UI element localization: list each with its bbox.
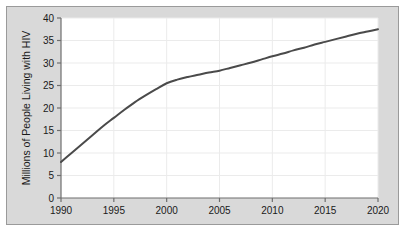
y-axis-tick-label: 30 xyxy=(43,58,55,69)
chart-figure: 0510152025303540 19901995200020052010201… xyxy=(0,0,407,234)
y-axis-tick-labels: 0510152025303540 xyxy=(43,13,55,204)
y-axis-tick-label: 40 xyxy=(43,13,55,24)
y-axis-tick-label: 20 xyxy=(43,103,55,114)
line-chart: 0510152025303540 19901995200020052010201… xyxy=(0,0,407,234)
y-axis-title: Millions of People Living with HIV xyxy=(20,31,32,186)
x-axis-ticks xyxy=(61,198,378,202)
y-axis-tick-label: 10 xyxy=(43,148,55,159)
y-axis-tick-label: 5 xyxy=(48,170,54,181)
y-axis-tick-label: 35 xyxy=(43,35,55,46)
x-axis-tick-label: 2015 xyxy=(314,205,337,216)
x-axis-tick-label: 2020 xyxy=(367,205,390,216)
x-axis-tick-labels: 1990199520002005201020152020 xyxy=(50,205,390,216)
y-axis-tick-label: 15 xyxy=(43,125,55,136)
x-axis-tick-label: 2000 xyxy=(156,205,179,216)
y-axis-tick-label: 0 xyxy=(48,193,54,204)
x-axis-tick-label: 1995 xyxy=(103,205,126,216)
y-axis-tick-label: 25 xyxy=(43,80,55,91)
x-axis-tick-label: 2005 xyxy=(208,205,231,216)
x-axis-tick-label: 1990 xyxy=(50,205,73,216)
x-axis-tick-label: 2010 xyxy=(261,205,284,216)
